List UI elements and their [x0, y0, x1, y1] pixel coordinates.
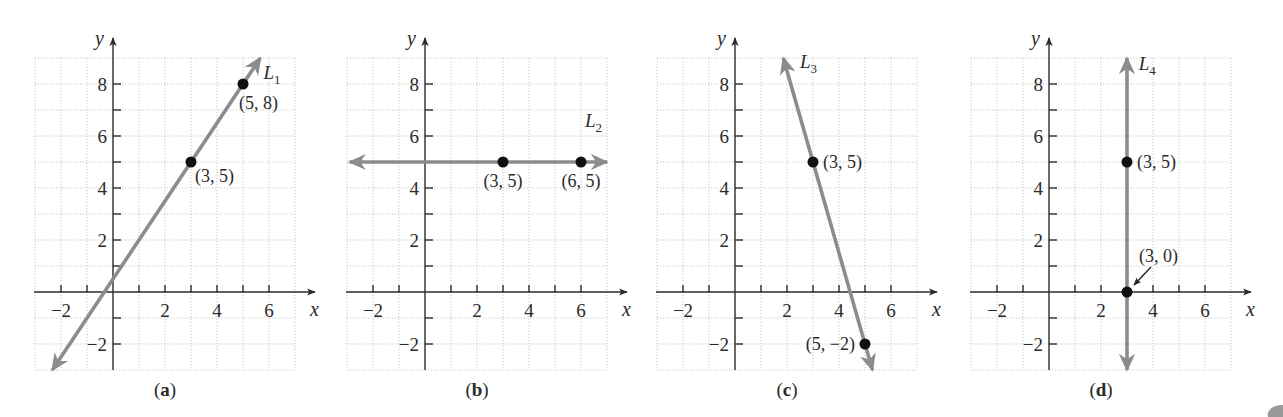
caption-letter: c: [783, 379, 791, 400]
caption-letter: d: [1096, 379, 1107, 400]
y-tick-label: 2: [410, 230, 420, 251]
y-axis-label: y: [1029, 27, 1040, 50]
x-tick-label: 6: [264, 300, 274, 321]
x-axis-label: x: [621, 298, 631, 320]
data-point: [1122, 157, 1133, 168]
x-tick-label: 2: [1096, 300, 1106, 321]
y-tick-label: 6: [1034, 126, 1044, 147]
x-tick-label: 2: [160, 300, 170, 321]
figure-svg: −2246−22468xyL1(3, 5)(5, 8)(a)−2246−2246…: [0, 0, 1283, 417]
x-tick-label: −2: [51, 300, 71, 321]
line-label-subscript: 2: [595, 120, 602, 135]
x-tick-label: −2: [987, 300, 1007, 321]
data-point: [808, 157, 819, 168]
y-tick-label: −2: [87, 334, 107, 355]
grid: [347, 58, 607, 370]
panel-b: −2246−22468xyL2(3, 5)(6, 5)(b): [346, 27, 631, 401]
panels: −2246−22468xyL1(3, 5)(5, 8)(a)−2246−2246…: [34, 27, 1255, 401]
y-tick-label: 2: [1034, 230, 1044, 251]
x-tick-label: 6: [886, 300, 896, 321]
x-tick-label: 4: [212, 300, 222, 321]
panel-caption: (d): [1089, 379, 1112, 401]
x-tick-label: 6: [1200, 300, 1210, 321]
point-label: (3, 5): [484, 171, 523, 192]
y-tick-label: 6: [720, 126, 730, 147]
panel-c: −2246−22468xyL3(3, 5)(5, −2)(c): [656, 27, 941, 401]
line-label-letter: L: [262, 62, 274, 83]
x-axis-label: x: [1245, 298, 1255, 320]
y-tick-label: 4: [98, 178, 108, 199]
corner-mark-icon: [1268, 405, 1283, 417]
point-label: (5, 8): [239, 93, 278, 114]
x-tick-label: 4: [1148, 300, 1158, 321]
x-axis-label: x: [931, 298, 941, 320]
y-tick-label: 2: [720, 230, 730, 251]
pointer-arrow-icon: [1134, 267, 1151, 285]
caption-paren-close: ): [170, 379, 176, 401]
x-tick-label: −2: [363, 300, 383, 321]
y-axis-label: y: [405, 27, 416, 50]
data-point: [238, 79, 249, 90]
point-label: (6, 5): [562, 171, 601, 192]
y-tick-label: 6: [410, 126, 420, 147]
y-tick-label: 6: [98, 126, 108, 147]
y-axis-label: y: [93, 27, 104, 50]
caption-paren-close: ): [482, 379, 488, 401]
y-tick-label: −2: [1023, 334, 1043, 355]
line-label-letter: L: [1138, 53, 1150, 74]
x-axis-label: x: [309, 298, 319, 320]
y-tick-label: 8: [98, 74, 108, 95]
point-label: (3, 5): [195, 166, 234, 187]
x-tick-label: 2: [472, 300, 482, 321]
data-point: [860, 339, 871, 350]
line-label-l4: L4: [1138, 53, 1157, 78]
grid: [657, 58, 917, 370]
y-tick-label: 8: [720, 74, 730, 95]
point-label: (5, −2): [806, 334, 855, 355]
y-tick-label: −2: [399, 334, 419, 355]
figure-linear-equations: −2246−22468xyL1(3, 5)(5, 8)(a)−2246−2246…: [0, 0, 1283, 417]
line-label-subscript: 3: [811, 61, 818, 76]
y-tick-label: 8: [1034, 74, 1044, 95]
data-point: [576, 157, 587, 168]
data-point: [498, 157, 509, 168]
caption-paren-close: ): [1106, 379, 1112, 401]
x-tick-label: 4: [834, 300, 844, 321]
line-label-subscript: 4: [1149, 63, 1156, 78]
panel-a: −2246−22468xyL1(3, 5)(5, 8)(a): [34, 27, 319, 401]
caption-letter: b: [472, 379, 483, 400]
data-point: [1122, 287, 1133, 298]
y-tick-label: 4: [1034, 178, 1044, 199]
panel-d: −2246−22468xyL4(3, 5)(3, 0)(d): [970, 27, 1255, 401]
line-label-subscript: 1: [274, 72, 281, 87]
caption-paren-close: ): [791, 379, 797, 401]
y-tick-label: 2: [98, 230, 108, 251]
panel-caption: (a): [154, 379, 176, 401]
point-label: (3, 5): [1137, 152, 1176, 173]
y-tick-label: −2: [709, 334, 729, 355]
line-label-l3: L3: [799, 51, 817, 76]
y-tick-label: 4: [720, 178, 730, 199]
y-tick-label: 8: [410, 74, 420, 95]
panel-caption: (c): [776, 379, 797, 401]
line-label-l1: L1: [262, 62, 280, 87]
x-tick-label: 2: [782, 300, 792, 321]
line-label-l2: L2: [584, 110, 602, 135]
x-tick-label: 6: [576, 300, 586, 321]
line-label-letter: L: [799, 51, 811, 72]
point-label: (3, 0): [1139, 246, 1178, 267]
x-tick-label: 4: [524, 300, 534, 321]
grid: [971, 58, 1231, 370]
caption-letter: a: [160, 379, 170, 400]
line-label-letter: L: [584, 110, 596, 131]
x-tick-label: −2: [673, 300, 693, 321]
y-axis-label: y: [715, 27, 726, 50]
panel-caption: (b): [465, 379, 488, 401]
y-tick-label: 4: [410, 178, 420, 199]
point-label: (3, 5): [823, 152, 862, 173]
